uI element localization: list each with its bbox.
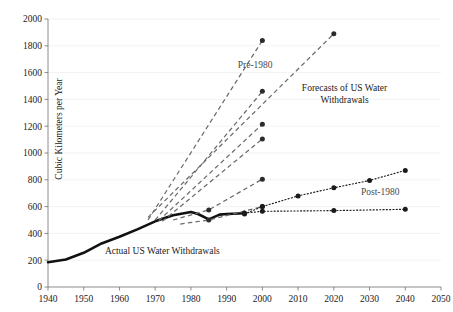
x-tick-label: 2020	[324, 294, 343, 304]
data-point	[296, 193, 301, 198]
x-tick-label: 1940	[39, 294, 58, 304]
y-tick-label: 1200	[23, 122, 42, 132]
data-point	[206, 218, 211, 223]
data-series-layer	[48, 34, 405, 262]
series-line	[159, 124, 263, 220]
data-point	[260, 38, 265, 43]
x-tick-label: 2010	[289, 294, 308, 304]
grid-lines	[48, 19, 441, 260]
data-point	[331, 208, 336, 213]
y-tick-label: 2000	[23, 14, 42, 24]
annotation-text: Withdrawals	[320, 95, 368, 105]
annotation-text: Post-1980	[361, 187, 400, 197]
y-axis-title-text: Cubic Kilometers per Year	[54, 78, 64, 180]
x-tick-label: 1950	[74, 294, 93, 304]
y-tick-label: 1800	[23, 41, 42, 51]
y-tick-label: 200	[28, 256, 43, 266]
chart-canvas: 0200400600800100012001400160018002000 19…	[0, 0, 453, 312]
data-point	[403, 168, 408, 173]
data-point	[260, 177, 265, 182]
data-point	[403, 207, 408, 212]
x-tick-label: 1970	[146, 294, 165, 304]
y-tick-label: 600	[28, 202, 43, 212]
data-point	[206, 207, 211, 212]
y-axis-ticks: 0200400600800100012001400160018002000	[23, 14, 48, 292]
x-tick-label: 1980	[181, 294, 200, 304]
data-point	[331, 31, 336, 36]
chart-annotations: Forecasts of US WaterWithdrawalsPre-1980…	[105, 60, 400, 256]
annotation-text: Forecasts of US Water	[302, 83, 388, 93]
y-tick-label: 400	[28, 229, 43, 239]
y-tick-label: 1400	[23, 95, 42, 105]
data-point	[331, 185, 336, 190]
series-line	[155, 91, 262, 220]
y-tick-label: 1600	[23, 68, 42, 78]
data-point	[242, 211, 247, 216]
y-tick-label: 1000	[23, 148, 42, 158]
y-tick-label: 0	[37, 282, 42, 292]
x-tick-label: 2000	[253, 294, 272, 304]
data-point	[367, 178, 372, 183]
x-tick-label: 2050	[432, 294, 451, 304]
annotation-text: Pre-1980	[238, 60, 273, 70]
x-tick-label: 2030	[360, 294, 379, 304]
series-line	[245, 209, 406, 213]
x-tick-label: 2040	[396, 294, 415, 304]
y-axis-title: Cubic Kilometers per Year	[54, 78, 64, 180]
data-point	[260, 136, 265, 141]
data-point	[260, 89, 265, 94]
x-axis-ticks: 1940195019601970198019902000201020202030…	[39, 287, 451, 304]
water-withdrawals-chart: 0200400600800100012001400160018002000 19…	[0, 0, 453, 312]
y-tick-label: 800	[28, 175, 43, 185]
annotation-text: Actual US Water Withdrawals	[105, 246, 220, 256]
data-point	[260, 122, 265, 127]
x-tick-label: 1960	[110, 294, 129, 304]
data-point	[260, 209, 265, 214]
x-tick-label: 1990	[217, 294, 236, 304]
data-point	[260, 204, 265, 209]
